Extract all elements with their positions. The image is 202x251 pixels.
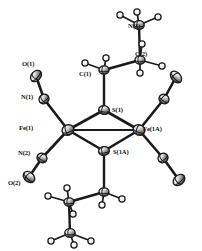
atom-o-ellipsoid (28, 68, 43, 84)
hydrogen-atom (155, 14, 161, 20)
atom-o-ellipsoid (21, 169, 37, 185)
hydrogen-atom (70, 211, 76, 217)
hydrogen-atom (99, 202, 105, 208)
hydrogen-atom (71, 242, 77, 248)
atom-o-ellipsoid (168, 69, 184, 85)
hydrogen-atom (82, 60, 88, 66)
label-n3: N(3) (128, 22, 140, 30)
label-fe1a: Fe(1A) (143, 125, 162, 133)
label-s1: S(1) (112, 106, 123, 114)
label-n1: N(1) (21, 93, 33, 101)
label-o2: O(2) (8, 179, 20, 187)
atom-n-ellipsoid (65, 229, 75, 238)
hydrogen-atom (88, 238, 94, 244)
atom-c-ellipsoid (99, 66, 109, 74)
label-c1: C(1) (79, 70, 91, 78)
hydrogen-atom (103, 55, 109, 61)
atom-c-ellipsoid (99, 188, 109, 196)
hydrogen-atom (48, 238, 54, 244)
bond (68, 130, 104, 151)
atom-o-ellipsoid (171, 172, 187, 188)
label-fe1: Fe(1) (19, 124, 33, 132)
hydrogen-atom (45, 193, 51, 199)
hydrogen-atom (139, 41, 145, 47)
label-n2: N(2) (18, 149, 30, 157)
hydrogen-atom (137, 70, 143, 76)
label-s1a: S(1A) (113, 148, 129, 156)
hydrogen-atom (117, 12, 123, 18)
label-c2: C(2) (135, 50, 147, 58)
hydrogen-atom (64, 185, 70, 191)
atom-c-ellipsoid (135, 56, 145, 64)
molecular-structure-figure: N(3)C(2)C(1)O(1)N(1)Fe(1)N(2)O(2)S(1)S(1… (0, 0, 202, 251)
hydrogen-atom (159, 63, 165, 69)
ortep-diagram: N(3)C(2)C(1)O(1)N(1)Fe(1)N(2)O(2)S(1)S(1… (0, 0, 202, 251)
hydrogen-atom (119, 196, 125, 202)
hydrogen-atom (134, 9, 140, 15)
atom-c-ellipsoid (64, 198, 74, 206)
label-o1: O(1) (22, 60, 34, 68)
